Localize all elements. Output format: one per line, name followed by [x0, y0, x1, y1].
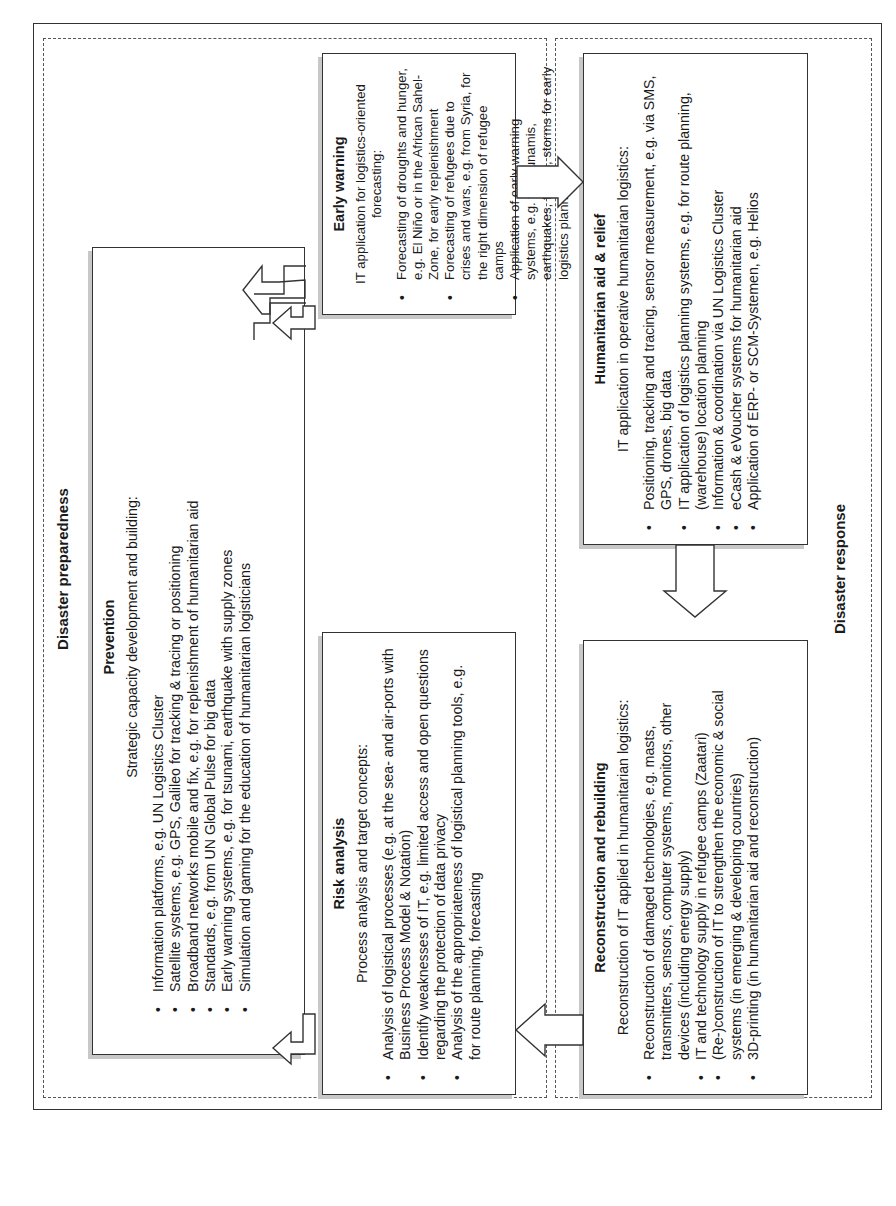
arrow-humanitarian-to-reconstruction — [664, 545, 726, 617]
flow-arrows — [0, 0, 896, 1206]
diagram-page: Disaster preparedness Disaster response … — [0, 0, 896, 1206]
elbow-arrow-risk-analysis-to-prevention — [260, 1001, 330, 1081]
arrow-reconstruction-to-risk-analysis — [516, 1004, 583, 1056]
arrow-early-warning-to-humanitarian — [517, 157, 583, 207]
elbow-arrow-prevention-to-early-warning — [260, 276, 330, 356]
